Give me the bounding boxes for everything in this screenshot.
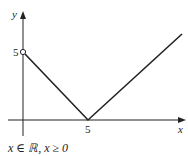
y-intercept-label: 5 — [13, 47, 19, 58]
graph-canvas — [0, 0, 188, 156]
y-axis-label: y — [12, 9, 17, 20]
y-axis-arrow-icon — [20, 11, 26, 19]
x-intercept-label: 5 — [85, 124, 91, 135]
domain-caption: x ∈ ℝ, x ≥ 0 — [8, 141, 68, 156]
function-graph — [25, 34, 182, 120]
x-axis-label: x — [178, 124, 183, 135]
open-endpoint-marker — [20, 49, 25, 54]
